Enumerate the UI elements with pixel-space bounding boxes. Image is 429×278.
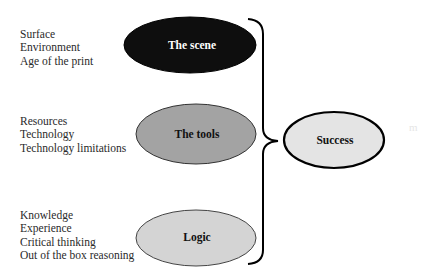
factor-item: Age of the print (20, 55, 93, 68)
logic-factors-list: Knowledge Experience Critical thinking O… (20, 209, 134, 262)
factor-item: Out of the box reasoning (20, 249, 134, 262)
factor-item: Critical thinking (20, 236, 134, 249)
tools-label: The tools (174, 128, 219, 140)
success-label: Success (316, 134, 353, 146)
logic-label: Logic (183, 231, 210, 243)
factor-item: Surface (20, 28, 93, 41)
scene-label: The scene (168, 39, 216, 51)
scene-factors-list: Surface Environment Age of the print (20, 28, 93, 68)
factor-item: Resources (20, 115, 126, 128)
factor-item: Technology (20, 128, 126, 141)
factor-item: Knowledge (20, 209, 134, 222)
faint-artifact-text: m (409, 121, 418, 133)
factor-item: Experience (20, 222, 134, 235)
factor-item: Environment (20, 41, 93, 54)
factor-item: Technology limitations (20, 142, 126, 155)
tools-factors-list: Resources Technology Technology limitati… (20, 115, 126, 155)
